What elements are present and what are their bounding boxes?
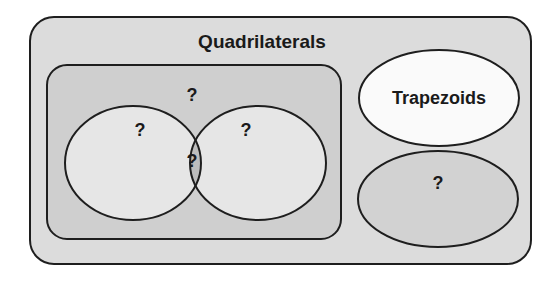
quadrilaterals-title: Quadrilaterals — [198, 31, 326, 52]
left-set-label: ? — [135, 120, 146, 140]
venn-diagram: Quadrilaterals ? ? ? ? Trapezoids ? — [0, 0, 559, 285]
other-set-label: ? — [433, 173, 444, 193]
other-set-ellipse — [358, 151, 518, 247]
right-set-label: ? — [241, 120, 252, 140]
intersection-label: ? — [187, 151, 198, 171]
inner-group-label: ? — [187, 85, 198, 105]
trapezoids-label: Trapezoids — [392, 88, 486, 108]
